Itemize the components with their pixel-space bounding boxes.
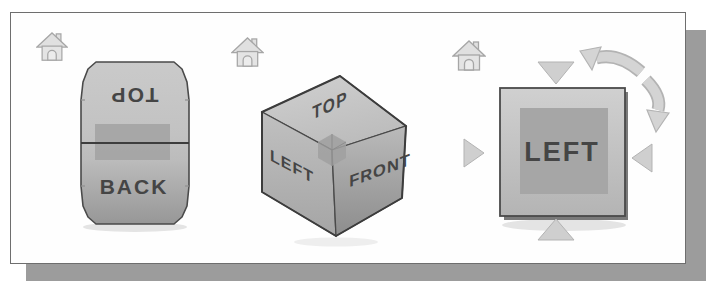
- tilt-arrow-right-icon[interactable]: [632, 144, 652, 172]
- back-face-label: BACK: [100, 175, 169, 198]
- viewcube-isometric-widget: TOP LEFT FRONT: [250, 66, 414, 250]
- cube-ground-shadow: [294, 238, 378, 247]
- scanned-figure: TOP BACK: [0, 0, 708, 286]
- roll-arrow-ccw-icon[interactable]: [580, 47, 641, 72]
- home-button[interactable]: [36, 31, 68, 65]
- tilt-arrow-left-icon[interactable]: [464, 139, 484, 167]
- top-face-label: TOP: [110, 84, 159, 107]
- viewcube-face-widget: LEFT: [450, 28, 684, 252]
- viewcube-rotating-widget: TOP BACK: [72, 58, 198, 234]
- roll-arrow-cw-icon[interactable]: [646, 80, 669, 132]
- tilt-arrow-top-icon[interactable]: [538, 62, 574, 84]
- face-label: LEFT: [524, 137, 600, 167]
- home-icon: [36, 31, 68, 65]
